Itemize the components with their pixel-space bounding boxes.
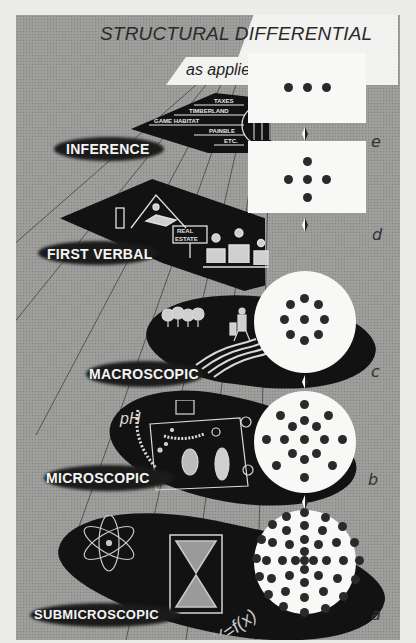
dot [319,587,328,596]
dot [309,556,318,565]
card-microscopic [254,391,356,493]
level-letter-b: b [368,470,378,489]
dot [333,574,342,583]
dot [284,175,293,184]
dot [282,512,291,521]
label-submicroscopic: SUBMICROSCOPIC [34,607,159,622]
dot [262,435,271,444]
dot [312,422,321,431]
label-inference: INFERENCE [66,141,150,157]
svg-text:PAINBLE: PAINBLE [209,128,235,134]
dot [278,556,287,565]
label-first-verbal: FIRST VERBAL [47,246,153,262]
svg-text:ETC.: ETC. [224,138,238,144]
dot [300,535,309,544]
card-first-verbal [248,141,366,213]
level-letter-c: c [371,362,380,381]
card-inference [248,53,366,123]
dot [314,571,323,580]
dot [314,330,323,339]
dot [322,83,331,92]
dot [321,513,330,522]
dot [300,416,309,425]
card-submicroscopic [254,510,356,614]
dot [262,556,271,565]
dot [300,608,309,617]
dot [312,449,321,458]
dot [255,572,264,581]
label-macroscopic: MACROSCOPIC [89,366,199,382]
card-macroscopic [254,271,356,373]
dot [320,435,329,444]
dot [300,565,309,574]
dot [300,336,309,345]
dot [300,315,309,324]
hourglass-icon [170,535,222,613]
diagram-panel: STRUCTURAL DIFFERENTIAL as applied to "L… [16,15,400,640]
dot [318,526,327,535]
dot [303,83,312,92]
dot [339,556,348,565]
label-microscopic: MICROSCOPIC [46,470,150,486]
level-letter-a: a [371,605,381,624]
dot [280,315,289,324]
dot [267,574,276,583]
dot [252,554,261,563]
dot [351,575,360,584]
dot [355,556,364,565]
dot [300,294,309,303]
dot [282,526,291,535]
dot [324,411,333,420]
dot [281,587,290,596]
dot [268,520,277,529]
dot [303,157,312,166]
svg-text:REAL: REAL [177,228,194,234]
dot [288,422,297,431]
dot [276,411,285,420]
level-letter-e: e [371,132,381,151]
dot [300,556,309,565]
dot [300,400,309,409]
dot [300,455,309,464]
dot [300,521,309,530]
svg-text:GAME HABITAT: GAME HABITAT [154,118,199,124]
dot [286,330,295,339]
dot [350,538,359,547]
dot [300,473,309,482]
dot [285,540,294,549]
dot [339,592,348,601]
dot [338,522,347,531]
dot [322,556,331,565]
svg-text:TIMBERLAND: TIMBERLAND [189,108,229,114]
svg-text:TAXES: TAXES [214,98,234,104]
dot [320,315,329,324]
dot [300,508,309,517]
dot [303,175,312,184]
dot [279,602,288,611]
dot [300,578,309,587]
dot [268,538,277,547]
dot [314,540,323,549]
svg-text:ESTATE: ESTATE [175,236,198,242]
dot [300,593,309,602]
dot [338,435,347,444]
dot [280,435,289,444]
dot [328,461,337,470]
dot [300,547,309,556]
diagram-title: STRUCTURAL DIFFERENTIAL [100,23,372,45]
dot [284,83,293,92]
dot [272,461,281,470]
dot [303,193,312,202]
dot [321,604,330,613]
dot [300,435,309,444]
level-letter-d: d [372,225,382,244]
equation-label: Y=f(x) [209,605,260,635]
dot [288,449,297,458]
dot [332,538,341,547]
first-verbal-illustration: REAL ESTATE [91,183,271,283]
dot [322,175,331,184]
dot [264,590,273,599]
dot [257,535,266,544]
dot [314,300,323,309]
dot [286,300,295,309]
